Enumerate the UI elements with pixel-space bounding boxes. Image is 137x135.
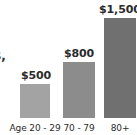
category-label-70-79: 70 - 79 [62,123,96,133]
bar-chart: $, $500 $800 $1,500 Age 20 - 29 70 - 79 … [0,0,137,135]
value-label-80-plus: $1,500 [99,3,137,16]
category-label-80-plus: 80+ [104,123,136,133]
bar-age-20-29 [20,84,50,118]
category-label-age-20-29: Age 20 - 29 [5,123,65,133]
value-label-age-20-29: $500 [20,69,52,82]
bar-70-79 [63,62,95,118]
bar-80-plus [104,18,136,118]
clipped-left-text: $, [0,49,6,63]
value-label-70-79: $800 [61,47,97,60]
